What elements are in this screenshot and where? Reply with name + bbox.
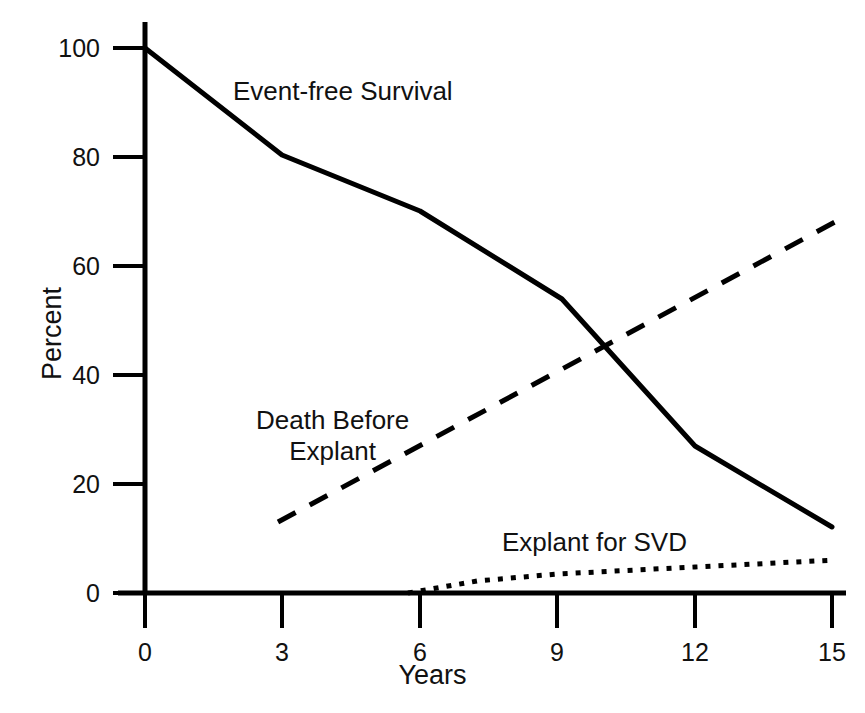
chart-plot-area bbox=[0, 0, 865, 713]
y-tick-label-80: 80 bbox=[28, 145, 100, 170]
series-line-explant-for-svd bbox=[408, 560, 835, 593]
chart-figure: 100 80 60 40 20 0 0 3 6 9 12 15 Percent … bbox=[0, 0, 865, 713]
y-axis-title: Percent bbox=[37, 264, 68, 404]
series-label-event-free-survival: Event-free Survival bbox=[233, 76, 453, 107]
y-tick-label-100: 100 bbox=[28, 36, 100, 61]
x-axis-ticks bbox=[145, 593, 832, 628]
series-line-event-free-survival bbox=[145, 48, 832, 527]
y-axis-ticks bbox=[113, 48, 145, 593]
y-tick-label-20: 20 bbox=[28, 472, 100, 497]
x-axis-title: Years bbox=[0, 660, 865, 691]
series-label-explant-for-svd: Explant for SVD bbox=[502, 527, 687, 558]
y-tick-label-0: 0 bbox=[28, 581, 100, 606]
series-label-death-before-explant: Death Before Explant bbox=[256, 405, 409, 466]
